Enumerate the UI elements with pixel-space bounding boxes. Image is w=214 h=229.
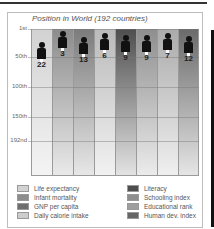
legend: Life expectancy Infant mortality GNP per… [17,185,107,225]
gridline-150th [28,117,199,118]
value-schooling-index: 9 [136,53,157,62]
value-educational-rank: 7 [157,51,178,60]
value-infant-mortality: 3 [52,49,73,58]
gridline-1st [28,29,199,30]
value-human-dev-index: 12 [178,54,199,63]
ytick-100th: 100th [3,83,27,89]
value-life-expectancy: 22 [31,60,52,69]
ytick-50th: 50th [3,53,27,59]
person-icon [184,36,193,53]
person-icon [58,31,67,48]
person-icon [100,33,109,50]
ytick-150th: 150th [3,113,27,119]
person-icon [142,35,151,52]
person-icon [163,33,172,50]
person-icon [37,42,46,59]
ytick-192nd: 192nd [3,137,27,143]
gridline-192nd [28,141,199,142]
value-gnp-per-capita: 13 [73,55,94,64]
right-edge-bar [211,30,214,227]
value-daily-calorie-intake: 6 [94,51,115,60]
person-icon [121,35,130,52]
legend: Literacy Schooling index Educational ran… [127,185,207,225]
chart-title: Position in World (192 countries) [32,14,148,23]
gridline-100th [28,87,199,88]
value-literacy: 9 [115,53,136,62]
plot-bottom-border [31,175,199,176]
ytick-1st: 1st [3,25,27,31]
person-icon [79,37,88,54]
top-rule [0,2,207,4]
